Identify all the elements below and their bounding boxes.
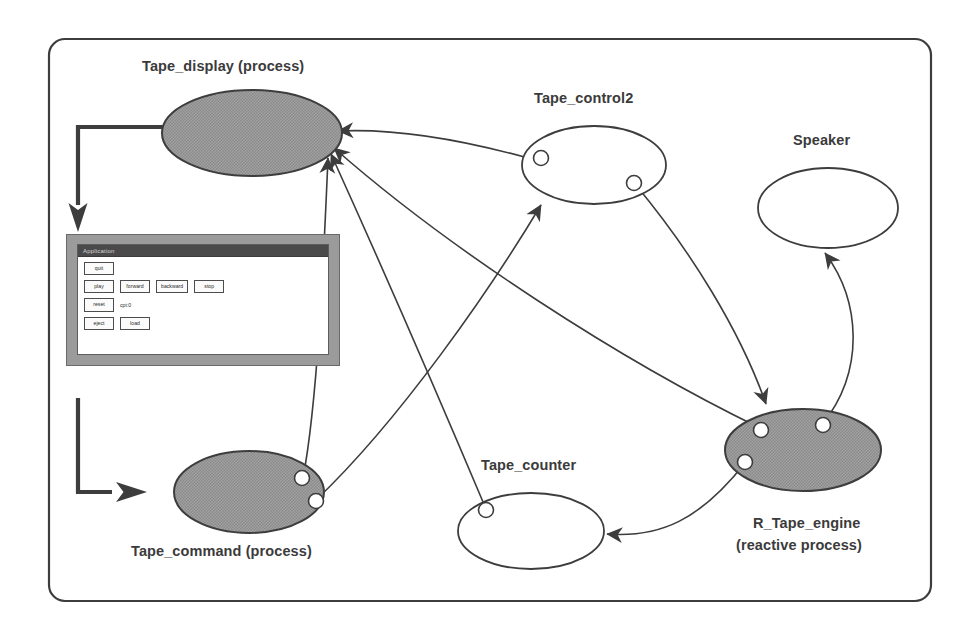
flow-arrow-into-window bbox=[78, 127, 166, 205]
port-control2-out[interactable] bbox=[627, 176, 642, 191]
node-r-tape-engine[interactable] bbox=[725, 409, 881, 491]
port-command-out-2[interactable] bbox=[309, 494, 324, 509]
port-control2-in[interactable] bbox=[534, 151, 549, 166]
edge-control2-to-display bbox=[338, 131, 528, 158]
forward-button[interactable]: forward bbox=[120, 280, 150, 293]
label-r-tape-engine-line2: (reactive process) bbox=[736, 536, 862, 554]
load-button[interactable]: load bbox=[120, 317, 150, 330]
port-command-out-1[interactable] bbox=[295, 471, 310, 486]
stop-button[interactable]: stop bbox=[194, 280, 224, 293]
quit-button[interactable]: quit bbox=[84, 262, 114, 275]
port-engine-top-right[interactable] bbox=[816, 418, 831, 433]
label-tape-control2: Tape_control2 bbox=[534, 89, 633, 107]
edge-control2-to-engine bbox=[635, 184, 766, 404]
play-button[interactable]: play bbox=[84, 280, 114, 293]
label-tape-display: Tape_display (process) bbox=[142, 57, 304, 75]
edge-engine-to-counter bbox=[607, 463, 745, 535]
gui-window-body: quit play forward backward stop reset cp… bbox=[78, 257, 328, 340]
port-counter-in[interactable] bbox=[479, 503, 494, 518]
label-tape-counter: Tape_counter bbox=[481, 456, 576, 474]
gui-row-quit: quit bbox=[84, 262, 322, 275]
gui-window-inner: Application quit play forward backward s… bbox=[77, 244, 329, 355]
flow-arrow-from-window bbox=[78, 398, 112, 492]
embedded-gui-window[interactable]: Application quit play forward backward s… bbox=[66, 234, 340, 366]
backward-button[interactable]: backward bbox=[156, 280, 188, 293]
node-tape-command[interactable] bbox=[174, 451, 324, 533]
eject-button[interactable]: eject bbox=[84, 317, 114, 330]
gui-window-title: Application bbox=[83, 248, 115, 254]
flow-arrowhead-down bbox=[69, 203, 88, 232]
gui-row-transport: play forward backward stop bbox=[84, 280, 322, 293]
flow-arrowhead-right bbox=[116, 482, 147, 502]
port-engine-top-left[interactable] bbox=[754, 423, 769, 438]
gui-row-reset: reset cpt:0 bbox=[84, 298, 322, 311]
counter-readout: cpt:0 bbox=[120, 302, 131, 308]
label-tape-command: Tape_command (process) bbox=[131, 542, 312, 560]
node-speaker[interactable] bbox=[758, 168, 898, 248]
reset-button[interactable]: reset bbox=[84, 298, 114, 311]
label-r-tape-engine-line1: R_Tape_engine bbox=[753, 514, 860, 532]
diagram-canvas: Application quit play forward backward s… bbox=[0, 0, 975, 630]
gui-titlebar[interactable]: Application bbox=[78, 245, 328, 257]
port-engine-bottom-left[interactable] bbox=[738, 455, 753, 470]
node-tape-display[interactable] bbox=[162, 90, 342, 176]
edge-counter-to-display bbox=[331, 154, 486, 509]
gui-row-media: eject load bbox=[84, 317, 322, 330]
edge-engine-to-speaker bbox=[822, 253, 853, 425]
label-speaker: Speaker bbox=[793, 131, 850, 149]
